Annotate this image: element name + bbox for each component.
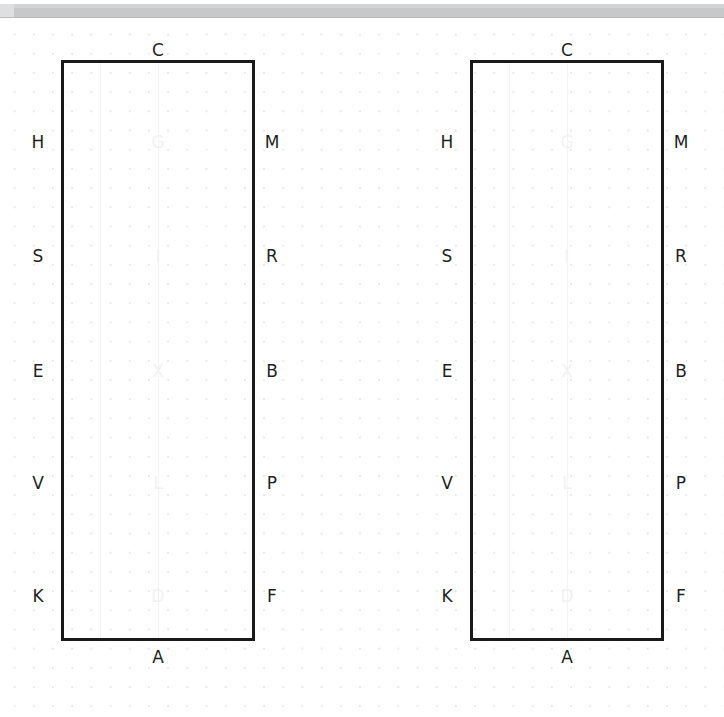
diagram-left-right-label-1: R xyxy=(260,248,284,265)
diagram-left-right-label-3: P xyxy=(260,475,284,492)
diagram-right[interactable]: C H S E V K M R B P F G I X L D A xyxy=(419,18,699,717)
diagram-right-right-label-2: B xyxy=(669,363,693,380)
diagram-left-center-label-1: I xyxy=(61,248,255,265)
diagram-left-left-label-2: E xyxy=(26,363,50,380)
diagram-right-right-label-3: P xyxy=(669,475,693,492)
diagram-left-left-label-1: S xyxy=(26,248,50,265)
diagram-left-top-label: C xyxy=(10,42,306,59)
diagram-left-right-label-0: M xyxy=(260,134,284,151)
diagram-left-right-label-4: F xyxy=(260,588,284,605)
diagram-right-left-label-0: H xyxy=(435,134,459,151)
diagram-right-left-label-1: S xyxy=(435,248,459,265)
diagram-right-center-label-3: L xyxy=(470,475,664,492)
toolbar-highlight xyxy=(0,4,724,8)
diagram-left-right-label-2: B xyxy=(260,363,284,380)
diagram-right-left-label-2: E xyxy=(435,363,459,380)
diagram-right-bottom-label: A xyxy=(419,649,715,666)
diagram-left-left-label-4: K xyxy=(26,588,50,605)
diagram-left-center-label-0: G xyxy=(61,134,255,151)
diagram-right-center-label-4: D xyxy=(470,588,664,605)
diagram-right-left-label-3: V xyxy=(435,475,459,492)
diagram-left-bottom-label: A xyxy=(10,649,306,666)
diagram-right-right-label-0: M xyxy=(669,134,693,151)
diagram-right-center-label-0: G xyxy=(470,134,664,151)
diagram-right-right-label-4: F xyxy=(669,588,693,605)
diagram-right-center-label-2: X xyxy=(470,363,664,380)
diagram-right-right-label-1: R xyxy=(669,248,693,265)
diagram-right-center-label-1: I xyxy=(470,248,664,265)
diagram-left-left-label-0: H xyxy=(26,134,50,151)
diagram-left-center-label-3: L xyxy=(61,475,255,492)
diagram-left-left-label-3: V xyxy=(26,475,50,492)
dotted-grid-canvas[interactable]: C H S E V K M R B P F G I X L D A C H S … xyxy=(0,18,724,717)
diagram-right-top-label: C xyxy=(419,42,715,59)
diagram-right-left-label-4: K xyxy=(435,588,459,605)
diagram-left[interactable]: C H S E V K M R B P F G I X L D A xyxy=(10,18,290,717)
diagram-left-center-label-4: D xyxy=(61,588,255,605)
window-toolbar-strip xyxy=(0,0,724,18)
diagram-left-center-label-2: X xyxy=(61,363,255,380)
toolbar-left-notch xyxy=(0,4,14,18)
